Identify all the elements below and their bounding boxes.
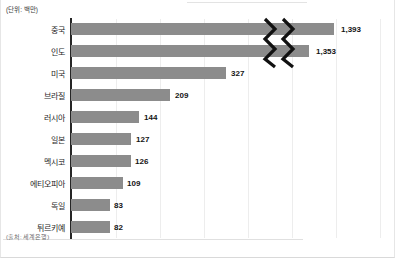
bar-value-label: 109 <box>127 172 140 194</box>
bar-row: 인도1,353 <box>1 40 395 62</box>
bar-rows: 중국1,393인도1,353미국327브라질209러시아144일본127멕시코1… <box>1 17 395 240</box>
bar-row: 독일83 <box>1 194 395 216</box>
bar-value-label: 82 <box>114 216 123 238</box>
chart-figure: (단위: 백만) 중국1,393인도1,353미국327브라질209러시아144… <box>0 0 395 258</box>
unit-note: (단위: 백만) <box>6 5 38 14</box>
bar-value-label: 127 <box>136 128 149 150</box>
category-label: 러시아 <box>1 106 65 128</box>
bar <box>71 221 110 233</box>
top-divider-rule <box>187 2 307 3</box>
bar-row: 멕시코126 <box>1 150 395 172</box>
bar <box>71 111 139 123</box>
category-label: 미국 <box>1 62 65 84</box>
bar-value-label: 144 <box>144 106 157 128</box>
source-note: (출처: 세계은행) <box>6 233 49 242</box>
category-label: 인도 <box>1 40 65 62</box>
category-label: 에티오피아 <box>1 172 65 194</box>
bar-row: 브라질209 <box>1 84 395 106</box>
bar <box>71 89 170 101</box>
bar-row: 중국1,393 <box>1 18 395 40</box>
bar <box>71 67 226 79</box>
plot-area: 중국1,393인도1,353미국327브라질209러시아144일본127멕시코1… <box>1 17 395 240</box>
bar <box>71 133 131 145</box>
bar-row: 미국327 <box>1 62 395 84</box>
bar <box>71 155 131 167</box>
bar-value-label: 1,393 <box>341 18 361 40</box>
axis-break-marks <box>259 17 309 69</box>
bar-value-label: 1,353 <box>316 40 336 62</box>
category-label: 독일 <box>1 194 65 216</box>
bar-row: 에티오피아109 <box>1 172 395 194</box>
bar <box>71 199 110 211</box>
category-label: 중국 <box>1 18 65 40</box>
bar-value-label: 209 <box>175 84 188 106</box>
category-label: 멕시코 <box>1 150 65 172</box>
category-label: 브라질 <box>1 84 65 106</box>
bar-value-label: 327 <box>231 62 244 84</box>
category-label: 일본 <box>1 128 65 150</box>
bar-row: 튀르키예82 <box>1 216 395 238</box>
bar-value-label: 83 <box>114 194 123 216</box>
bar-value-label: 126 <box>135 150 148 172</box>
bar-row: 러시아144 <box>1 106 395 128</box>
bar-row: 일본127 <box>1 128 395 150</box>
bar <box>71 177 123 189</box>
